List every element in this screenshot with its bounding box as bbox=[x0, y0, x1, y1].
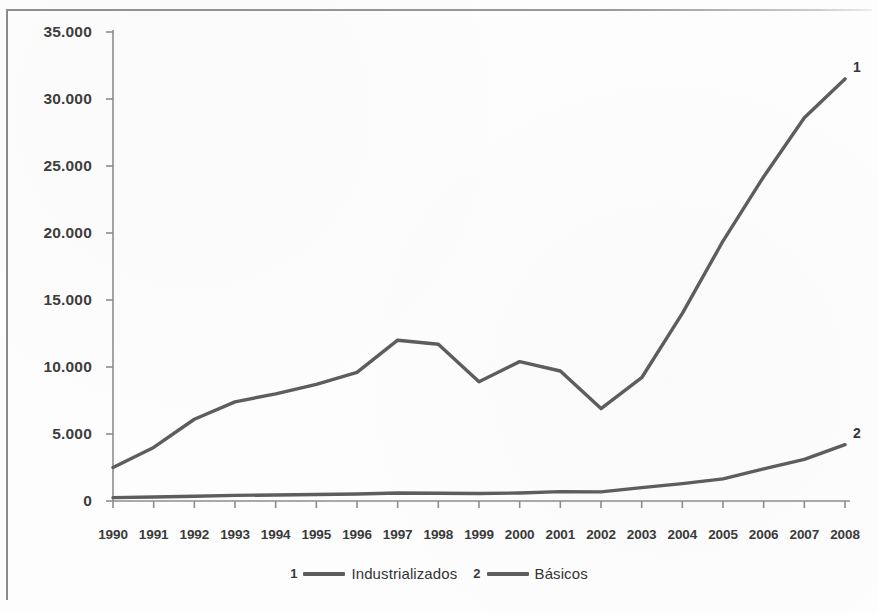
plot-canvas bbox=[0, 0, 878, 613]
y-axis-tick-labels: 05.00010.00015.00020.00025.00030.00035.0… bbox=[18, 0, 92, 613]
x-axis-tick-label: 2008 bbox=[830, 527, 860, 542]
x-axis-tick-label: 1992 bbox=[180, 527, 210, 542]
y-axis-tick-label: 5.000 bbox=[18, 425, 92, 443]
y-axis-ticks bbox=[106, 32, 113, 501]
series-end-label-1: 1 bbox=[853, 59, 861, 75]
y-axis-tick-label: 0 bbox=[18, 492, 92, 510]
x-axis-tick-label: 1999 bbox=[464, 527, 494, 542]
series-end-label-2: 2 bbox=[853, 425, 861, 441]
x-axis-tick-label: 2004 bbox=[668, 527, 698, 542]
x-axis-ticks bbox=[113, 501, 845, 508]
legend-key: 1 bbox=[290, 566, 297, 581]
x-axis-tick-label: 1994 bbox=[261, 527, 291, 542]
series-lines bbox=[113, 79, 845, 498]
series-line-industrializados bbox=[113, 79, 845, 468]
legend-entry-industrializados[interactable]: 1Industrializados bbox=[290, 565, 457, 582]
legend-line-swatch-icon bbox=[487, 572, 529, 576]
x-axis-tick-label: 2003 bbox=[627, 527, 657, 542]
x-axis-tick-label: 1998 bbox=[424, 527, 454, 542]
legend-key: 2 bbox=[473, 566, 480, 581]
chart-legend: 1Industrializados2Básicos bbox=[0, 565, 878, 582]
legend-label: Básicos bbox=[535, 565, 588, 582]
legend-entry-básicos[interactable]: 2Básicos bbox=[473, 565, 587, 582]
y-axis-tick-label: 25.000 bbox=[18, 157, 92, 175]
x-axis-tick-label: 1991 bbox=[139, 527, 169, 542]
y-axis-tick-label: 20.000 bbox=[18, 224, 92, 242]
line-chart: 05.00010.00015.00020.00025.00030.00035.0… bbox=[0, 0, 878, 613]
x-axis-tick-label: 1993 bbox=[220, 527, 250, 542]
legend-line-swatch-icon bbox=[303, 572, 345, 576]
chart-page: 05.00010.00015.00020.00025.00030.00035.0… bbox=[0, 0, 878, 613]
series-line-básicos bbox=[113, 445, 845, 498]
x-axis-tick-label: 1990 bbox=[98, 527, 128, 542]
x-axis-tick-label: 2007 bbox=[790, 527, 820, 542]
x-axis-tick-label: 2002 bbox=[586, 527, 616, 542]
x-axis-tick-label: 2000 bbox=[505, 527, 535, 542]
x-axis-tick-label: 2006 bbox=[749, 527, 779, 542]
x-axis-tick-label: 2005 bbox=[708, 527, 738, 542]
x-axis-tick-label: 2001 bbox=[546, 527, 576, 542]
legend-label: Industrializados bbox=[351, 565, 457, 582]
y-axis-tick-label: 30.000 bbox=[18, 90, 92, 108]
y-axis-tick-label: 15.000 bbox=[18, 291, 92, 309]
y-axis-tick-label: 10.000 bbox=[18, 358, 92, 376]
x-axis-tick-label: 1997 bbox=[383, 527, 413, 542]
x-axis-tick-label: 1996 bbox=[342, 527, 372, 542]
y-axis-tick-label: 35.000 bbox=[18, 23, 92, 41]
x-axis-tick-labels: 1990199119921993199419951996199719981999… bbox=[0, 527, 878, 549]
axis-lines bbox=[113, 30, 850, 501]
x-axis-tick-label: 1995 bbox=[302, 527, 332, 542]
